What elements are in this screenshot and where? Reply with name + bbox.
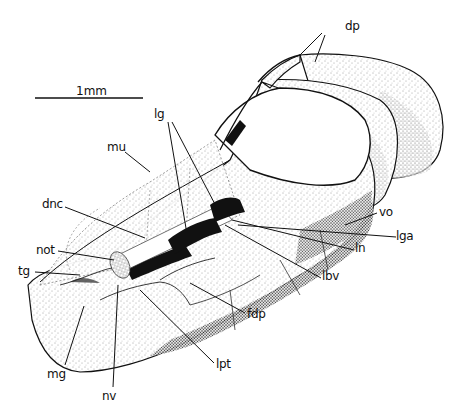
scale-bar-label: 1mm [76, 85, 107, 97]
label-not: not [36, 244, 55, 256]
label-lbv: lbv [322, 270, 339, 282]
label-fdp: fdp [247, 308, 266, 320]
label-lg: lg [154, 108, 164, 120]
label-tg: tg [18, 265, 30, 277]
label-vo: vo [379, 206, 393, 218]
label-mg: mg [47, 368, 66, 380]
anatomical-figure: 1mm dp lg mu dnc not tg mg nv lpt fdp lb… [0, 0, 459, 418]
label-dnc: dnc [42, 198, 63, 210]
label-lpt: lpt [216, 358, 231, 370]
label-dp: dp [345, 20, 360, 32]
label-lga: lga [396, 230, 413, 242]
label-nv: nv [102, 390, 116, 402]
label-ln: ln [355, 242, 365, 254]
label-mu: mu [107, 141, 126, 153]
